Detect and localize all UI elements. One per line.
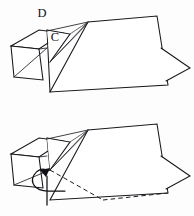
lower-main-panel-face	[50, 124, 168, 200]
origami-diagram: D C	[0, 0, 194, 216]
lower-figure	[11, 124, 190, 205]
upper-figure: D C	[11, 6, 190, 92]
label-C: C	[51, 30, 59, 44]
lower-c-triangle-face	[47, 138, 70, 170]
upper-main-panel-face	[50, 16, 168, 92]
origami-svg-canvas: D C	[0, 0, 194, 216]
label-D: D	[37, 6, 46, 20]
